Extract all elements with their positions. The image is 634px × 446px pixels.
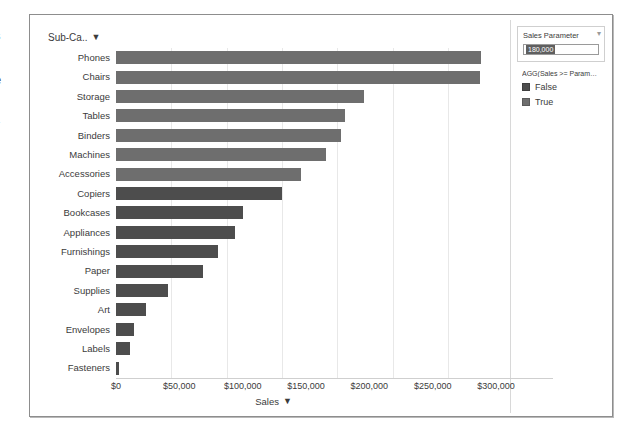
bar-track [116, 106, 498, 125]
category-label[interactable]: Chairs [48, 72, 110, 82]
legend-label: False [535, 82, 557, 92]
category-label[interactable]: Labels [48, 344, 110, 354]
legend-swatch [522, 83, 530, 91]
bar-chairs[interactable] [116, 71, 480, 84]
x-axis-tick: $250,000 [414, 381, 452, 391]
clipped-glyph: e [0, 58, 26, 102]
axis-rule [116, 378, 553, 379]
bar-row: Envelopes [48, 320, 498, 339]
bar-row: Tables [48, 106, 498, 125]
bar-track [116, 261, 498, 280]
parameter-input[interactable]: 180,000 [523, 44, 599, 55]
bar-track [116, 126, 498, 145]
bar-row: Paper [48, 261, 498, 280]
category-label[interactable]: Tables [48, 111, 110, 121]
bar-row: Storage [48, 87, 498, 106]
bar-track [116, 184, 498, 203]
category-label[interactable]: Accessories [48, 169, 110, 179]
bar-envelopes[interactable] [116, 323, 134, 336]
viz-inner: Sub-Ca..▼ PhonesChairsStorageTablesBinde… [35, 20, 607, 411]
bar-row: Copiers [48, 184, 498, 203]
category-label[interactable]: Envelopes [48, 325, 110, 335]
bar-track [116, 203, 498, 222]
bar-copiers[interactable] [116, 187, 282, 200]
bar-track [116, 87, 498, 106]
sort-descending-icon[interactable]: ▼ [91, 32, 99, 42]
bar-row: Fasteners [48, 359, 498, 378]
legend-swatch [522, 98, 530, 106]
row-field-header[interactable]: Sub-Ca..▼ [48, 32, 99, 43]
legend-item-false[interactable]: False [522, 82, 600, 92]
bar-appliances[interactable] [116, 226, 235, 239]
bar-binders[interactable] [116, 129, 341, 142]
bar-row: Phones [48, 48, 498, 67]
category-label[interactable]: Art [48, 305, 110, 315]
x-axis-tick: $300,000 [477, 381, 515, 391]
bar-row: Chairs [48, 67, 498, 86]
x-axis-tick: $50,000 [163, 381, 196, 391]
category-label[interactable]: Machines [48, 150, 110, 160]
caret-down-icon[interactable]: ▾ [597, 30, 601, 38]
legend-items: FalseTrue [522, 82, 600, 107]
bar-row: Appliances [48, 223, 498, 242]
category-label[interactable]: Supplies [48, 286, 110, 296]
legend-item-true[interactable]: True [522, 97, 600, 107]
bar-row: Binders [48, 126, 498, 145]
category-label[interactable]: Fasteners [48, 363, 110, 373]
bar-track [116, 281, 498, 300]
bar-tables[interactable] [116, 109, 345, 122]
bar-storage[interactable] [116, 90, 364, 103]
bar-row: Bookcases [48, 203, 498, 222]
x-axis-tick: $100,000 [224, 381, 262, 391]
bar-track [116, 359, 498, 378]
chart-pane: Sub-Ca..▼ PhonesChairsStorageTablesBinde… [35, 20, 511, 413]
category-label[interactable]: Phones [48, 53, 110, 63]
category-label[interactable]: Copiers [48, 189, 110, 199]
parameter-card-title: Sales Parameter [523, 31, 599, 40]
x-axis-tick: $200,000 [351, 381, 389, 391]
bar-accessories[interactable] [116, 168, 301, 181]
bar-track [116, 164, 498, 183]
category-label[interactable]: Appliances [48, 228, 110, 238]
legend-label: True [535, 97, 553, 107]
bar-labels[interactable] [116, 342, 130, 355]
bar-track [116, 145, 498, 164]
category-label[interactable]: Furnishings [48, 247, 110, 257]
sort-descending-icon[interactable]: ▼ [283, 396, 291, 406]
bar-row: Machines [48, 145, 498, 164]
bar-paper[interactable] [116, 265, 203, 278]
bar-bookcases[interactable] [116, 206, 243, 219]
bar-fasteners[interactable] [116, 362, 119, 375]
clipped-glyph: s [0, 102, 26, 124]
x-axis: $0$50,000$100,000$150,000$200,000$250,00… [116, 378, 553, 392]
bar-row: Labels [48, 339, 498, 358]
bar-machines[interactable] [116, 148, 326, 161]
plot-area: PhonesChairsStorageTablesBindersMachines… [48, 48, 498, 378]
bar-row: Furnishings [48, 242, 498, 261]
bar-track [116, 67, 498, 86]
legend-title: AGG(Sales >= Paramet... [522, 70, 600, 77]
category-label[interactable]: Binders [48, 131, 110, 141]
bar-furnishings[interactable] [116, 245, 218, 258]
clipped-left-text: ses [0, 14, 26, 124]
bar-art[interactable] [116, 303, 146, 316]
right-rail: Sales Parameter ▾ 180,000 AGG(Sales >= P… [512, 20, 609, 413]
bar-phones[interactable] [116, 51, 481, 64]
bar-row: Accessories [48, 164, 498, 183]
bar-track [116, 48, 498, 67]
x-axis-tick: $0 [111, 381, 121, 391]
category-label[interactable]: Paper [48, 266, 110, 276]
x-axis-tick: $150,000 [287, 381, 325, 391]
category-label[interactable]: Bookcases [48, 208, 110, 218]
bar-track [116, 339, 498, 358]
bar-track [116, 300, 498, 319]
parameter-value: 180,000 [526, 45, 555, 54]
bar-rows: PhonesChairsStorageTablesBindersMachines… [48, 48, 498, 378]
x-axis-title[interactable]: Sales▼ [48, 396, 498, 407]
bar-supplies[interactable] [116, 284, 168, 297]
bar-track [116, 320, 498, 339]
parameter-card: Sales Parameter ▾ 180,000 [517, 26, 605, 62]
category-label[interactable]: Storage [48, 92, 110, 102]
clipped-glyph: s [0, 14, 26, 58]
bar-row: Art [48, 300, 498, 319]
